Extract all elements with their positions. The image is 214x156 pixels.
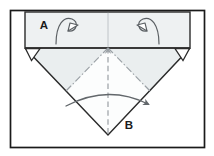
label-a: A (40, 19, 48, 31)
top-flap-band (25, 12, 190, 48)
label-b: B (125, 119, 133, 131)
origami-diagram-root: A B (0, 0, 214, 156)
origami-diagram-canvas: A B (0, 0, 214, 156)
